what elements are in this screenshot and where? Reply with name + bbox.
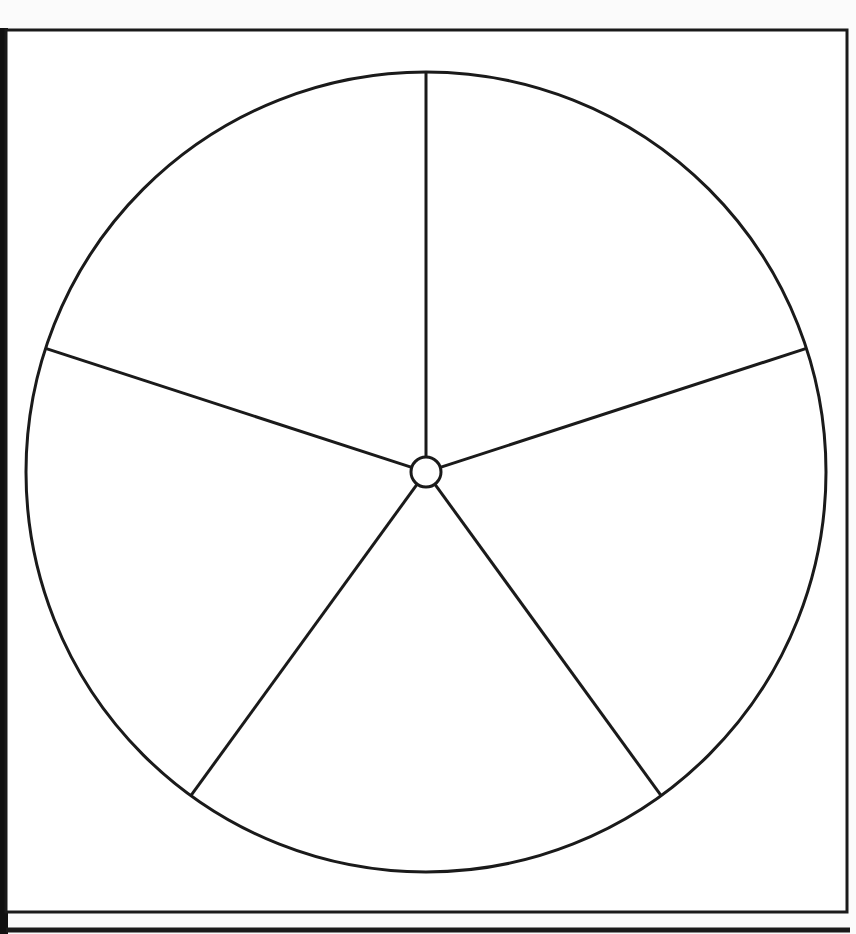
wheel-diagram (0, 0, 856, 934)
hub-circle (411, 457, 441, 487)
